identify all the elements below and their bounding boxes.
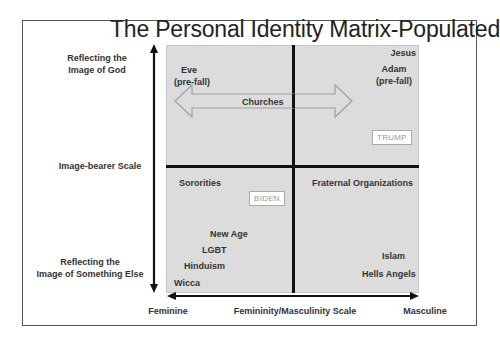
- y-axis-top-label-line1: Reflecting the: [42, 52, 152, 64]
- item-islam: Islam: [382, 250, 405, 262]
- horizontal-scale-arrow-icon: [167, 292, 419, 300]
- item-eve-qualifier: (pre-fall): [174, 76, 204, 88]
- x-axis-right-label: Masculine: [400, 305, 450, 317]
- item-eve-name: Eve: [174, 64, 204, 76]
- y-axis-bottom-label-line2: Image of Something Else: [25, 268, 155, 280]
- item-adam-name: Adam: [372, 63, 416, 75]
- item-new-age: New Age: [210, 228, 248, 240]
- x-axis-middle-label: Femininity/Masculinity Scale: [230, 305, 360, 317]
- y-axis-top-label-line2: Image of God: [42, 64, 152, 76]
- item-adam-qualifier: (pre-fall): [372, 75, 416, 87]
- item-fraternal-organizations: Fraternal Organizations: [312, 177, 413, 189]
- y-axis-middle-label: Image-bearer Scale: [45, 160, 155, 172]
- item-hells-angels: Hells Angels: [362, 268, 416, 280]
- item-wicca: Wicca: [174, 277, 200, 289]
- item-sororities: Sororities: [179, 177, 221, 189]
- trump-tag: TRUMP: [372, 130, 412, 145]
- item-churches: Churches: [242, 96, 284, 108]
- y-axis-bottom-label-line1: Reflecting the: [25, 256, 155, 268]
- x-axis-left-label: Feminine: [143, 305, 193, 317]
- biden-tag: BIDEN: [249, 191, 285, 206]
- item-hinduism: Hinduism: [184, 260, 225, 272]
- y-axis-top-label: Reflecting the Image of God: [42, 52, 152, 76]
- item-eve: Eve (pre-fall): [174, 64, 204, 88]
- y-axis-bottom-label: Reflecting the Image of Something Else: [25, 256, 155, 280]
- item-adam: Adam (pre-fall): [372, 63, 416, 87]
- item-jesus: Jesus: [380, 47, 416, 59]
- item-lgbt: LGBT: [202, 244, 227, 256]
